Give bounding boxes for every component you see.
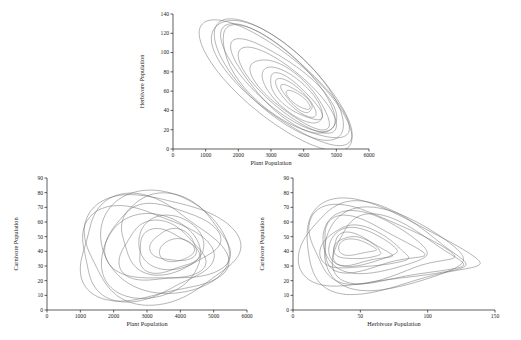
x-tick-label: 4000 — [298, 152, 309, 158]
phase-plot-plant-carnivore: 0100020003000400050006000010203040506070… — [10, 168, 262, 336]
x-axis-title: Plant Population — [126, 320, 167, 327]
y-tick-label: 90 — [283, 175, 289, 181]
trajectory-path — [333, 232, 393, 266]
y-tick-label: 100 — [161, 49, 170, 55]
trajectory-path — [339, 239, 377, 256]
x-tick-label: 5000 — [331, 152, 342, 158]
trajectory-path — [281, 84, 312, 112]
y-tick-label: 0 — [286, 307, 289, 313]
trajectory-path — [309, 204, 455, 284]
x-tick-label: 3000 — [265, 152, 276, 158]
y-tick-label: 30 — [283, 263, 289, 269]
trajectory-path — [122, 203, 221, 275]
x-tick-label: 3000 — [141, 313, 152, 319]
x-axis-title: Herbivore Population — [367, 320, 420, 327]
x-tick-label: 1000 — [75, 313, 86, 319]
trajectory-path — [323, 211, 427, 274]
y-tick-label: 20 — [163, 127, 169, 133]
trajectory-path — [221, 24, 336, 132]
y-tick-label: 50 — [283, 234, 289, 240]
y-tick-label: 60 — [283, 219, 289, 225]
trajectory-path — [101, 214, 200, 299]
y-tick-label: 40 — [163, 107, 169, 113]
y-tick-label: 30 — [37, 263, 43, 269]
y-tick-label: 10 — [283, 292, 289, 298]
x-tick-label: 6000 — [363, 152, 374, 158]
x-tick-label: 100 — [423, 313, 432, 319]
y-tick-label: 50 — [37, 234, 43, 240]
x-tick-label: 150 — [491, 313, 500, 319]
x-tick-label: 0 — [172, 152, 175, 158]
y-axis-title: Carnivore Population — [258, 217, 265, 270]
y-tick-label: 60 — [163, 88, 169, 94]
y-tick-label: 60 — [37, 219, 43, 225]
y-tick-label: 140 — [161, 11, 170, 17]
trajectory-group — [298, 198, 480, 295]
trajectory-path — [80, 193, 229, 301]
x-tick-label: 5000 — [208, 313, 219, 319]
trajectory-path — [325, 207, 464, 291]
phase-plot-plant-herbivore-canvas: 0100020003000400050006000020406080100120… — [134, 2, 382, 168]
trajectory-path — [159, 239, 194, 262]
y-tick-label: 0 — [166, 146, 169, 152]
y-tick-label: 20 — [37, 278, 43, 284]
trajectory-path — [199, 20, 352, 151]
page: 0100020003000400050006000020406080100120… — [0, 0, 521, 340]
trajectory-path — [329, 227, 398, 266]
trajectory-path — [223, 25, 349, 138]
phase-plot-herbivore-carnivore: 0501001500102030405060708090Herbivore Po… — [258, 168, 510, 336]
y-tick-label: 20 — [283, 278, 289, 284]
y-tick-label: 70 — [37, 204, 43, 210]
x-tick-label: 2000 — [233, 152, 244, 158]
x-axis-title: Plant Population — [250, 159, 291, 166]
y-axis-title: Herbivore Population — [138, 55, 145, 108]
x-tick-label: 6000 — [241, 313, 252, 319]
x-tick-label: 1000 — [200, 152, 211, 158]
y-tick-label: 40 — [283, 248, 289, 254]
phase-plot-herbivore-carnivore-canvas: 0501001500102030405060708090Herbivore Po… — [258, 168, 510, 336]
y-tick-label: 70 — [283, 204, 289, 210]
y-tick-label: 90 — [37, 175, 43, 181]
y-tick-label: 120 — [161, 30, 170, 36]
y-tick-label: 80 — [283, 190, 289, 196]
y-tick-label: 80 — [37, 190, 43, 196]
x-tick-label: 4000 — [175, 313, 186, 319]
trajectory-group — [80, 190, 241, 305]
x-tick-label: 2000 — [108, 313, 119, 319]
axes-lines — [47, 178, 247, 310]
y-axis-title: Carnivore Population — [12, 217, 19, 270]
phase-plot-plant-carnivore-canvas: 0100020003000400050006000010203040506070… — [10, 168, 262, 336]
x-tick-label: 0 — [292, 313, 295, 319]
phase-plot-plant-herbivore: 0100020003000400050006000020406080100120… — [134, 2, 382, 168]
trajectory-group — [199, 19, 352, 151]
y-tick-label: 80 — [163, 69, 169, 75]
x-tick-label: 0 — [46, 313, 49, 319]
x-tick-label: 50 — [358, 313, 364, 319]
trajectory-path — [325, 215, 425, 273]
y-tick-label: 0 — [40, 307, 43, 313]
y-tick-label: 40 — [37, 248, 43, 254]
trajectory-path — [211, 21, 352, 146]
trajectory-path — [140, 229, 200, 274]
trajectory-path — [214, 19, 343, 141]
y-tick-label: 10 — [37, 292, 43, 298]
